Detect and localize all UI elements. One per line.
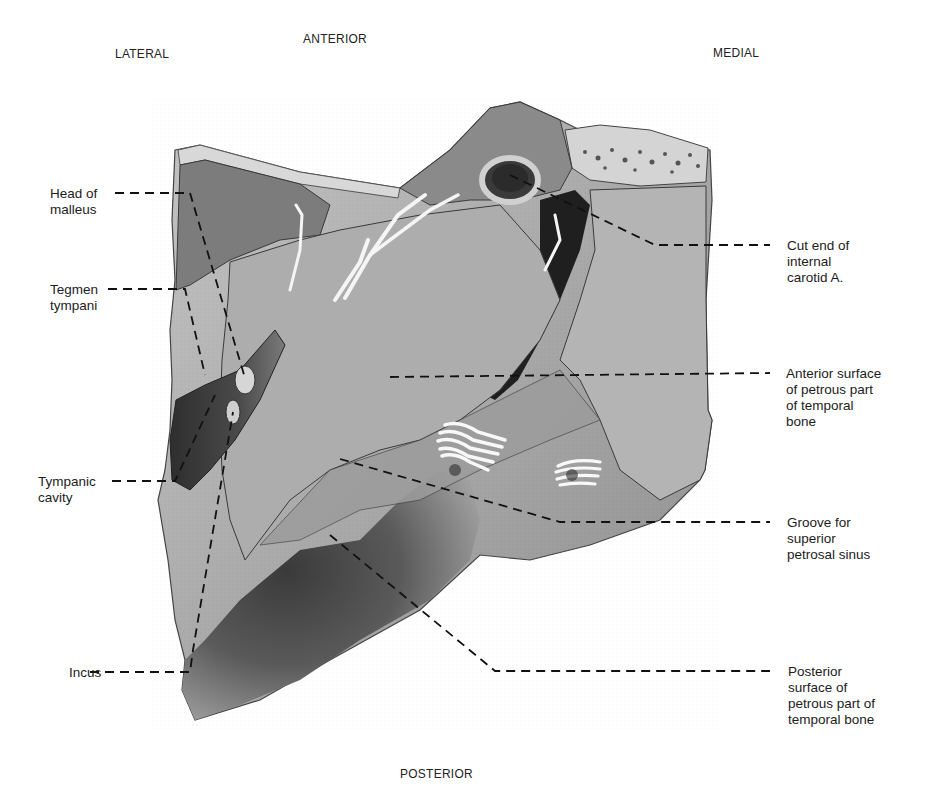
label-internal-carotid: Cut end of internal carotid A.	[787, 238, 849, 286]
label-superior-petrosal-groove: Groove for superior petrosal sinus	[787, 515, 870, 563]
label-tympanic-cavity: Tympanic cavity	[38, 474, 96, 506]
label-incus: Incus	[69, 665, 101, 681]
label-head-of-malleus: Head of malleus	[50, 186, 97, 218]
label-tegmen-tympani: Tegmen tympani	[50, 282, 98, 314]
label-anterior-surface: Anterior surface of petrous part of temp…	[786, 366, 881, 430]
label-posterior-surface: Posterior surface of petrous part of tem…	[788, 664, 875, 728]
malleus-head	[235, 366, 255, 394]
